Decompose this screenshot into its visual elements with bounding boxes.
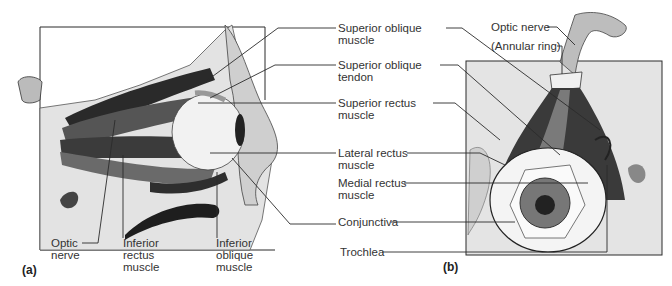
panel-a-tag: (a) [22,263,37,277]
label-superior-oblique-muscle: Superior oblique muscle [338,22,422,46]
panel-a [18,25,278,250]
label-annular-ring: (Annular ring) [491,40,561,52]
label-optic-nerve-b: Optic nerve [491,21,550,33]
label-superior-rectus-muscle: Superior rectus muscle [338,97,416,121]
label-inferior-oblique-muscle: Inferior oblique muscle [216,237,253,273]
optic-nerve-stump-a [18,77,42,103]
cornea-pupil [235,114,245,146]
label-optic-nerve-a: Optic nerve [51,237,80,261]
label-inferior-rectus-muscle: Inferior rectus muscle [123,237,159,273]
label-trochlea: Trochlea [340,246,384,258]
label-lateral-rectus-muscle: Lateral rectus muscle [338,147,408,171]
panel-b-tag: (b) [443,260,458,274]
illustration [0,0,672,286]
pupil [535,195,555,215]
label-superior-oblique-tendon: Superior oblique tendon [338,59,422,83]
figure-canvas: Superior oblique muscle Superior oblique… [0,0,672,286]
label-conjunctiva: Conjunctiva [338,216,398,228]
annular-ring-shape [550,72,582,90]
label-medial-rectus-muscle: Medial rectus muscle [338,177,406,201]
eyeball [172,94,244,170]
